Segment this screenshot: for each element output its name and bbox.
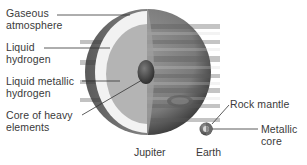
label-line: elements (6, 121, 73, 133)
label-line: Core of heavy (6, 109, 73, 121)
label-line: Liquid metallic (6, 75, 74, 87)
label-line: core (261, 135, 297, 147)
label-line: Liquid (6, 41, 51, 53)
label-gaseous-atmosphere: Gaseous atmosphere (6, 7, 62, 31)
label-line: hydrogen (6, 87, 74, 99)
planet-interior-diagram: Gaseous atmosphere Liquid hydrogen Liqui… (0, 0, 307, 165)
caption-earth: Earth (196, 146, 221, 158)
layer-core (138, 60, 155, 84)
label-line: Rock mantle (230, 98, 289, 110)
caption-jupiter: Jupiter (134, 146, 166, 158)
label-liquid-hydrogen: Liquid hydrogen (6, 41, 51, 65)
label-line: atmosphere (6, 19, 62, 31)
label-liquid-metallic-hydrogen: Liquid metallic hydrogen (6, 75, 74, 99)
label-line: Gaseous (6, 7, 62, 19)
earth-sphere (200, 123, 213, 136)
label-core-heavy-elements: Core of heavy elements (6, 109, 73, 133)
label-line: Metallic (261, 123, 297, 135)
label-rock-mantle: Rock mantle (230, 98, 289, 110)
label-metallic-core: Metallic core (261, 123, 297, 147)
label-line: hydrogen (6, 53, 51, 65)
